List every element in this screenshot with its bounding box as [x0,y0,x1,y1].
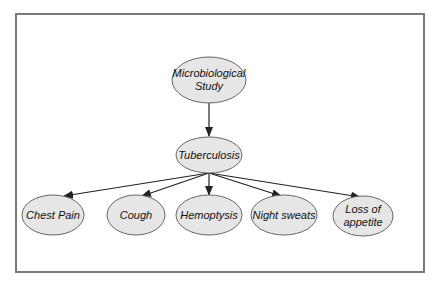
node-label: Cough [120,209,152,221]
node-night-sweats[interactable]: Night sweats [251,195,317,235]
node-chest-pain[interactable]: Chest Pain [22,195,84,235]
node-microbiological-study[interactable]: Microbiological Study [172,57,246,103]
edge-tb-night [209,173,281,196]
node-label: Tuberculosis [178,149,240,161]
edge-tb-cough [142,173,209,196]
node-label: Night sweats [253,209,316,221]
node-label: Chest Pain [26,209,80,221]
node-label-line: appetite [343,216,382,228]
node-label-line: Microbiological [173,67,246,79]
edge-tb-loss [209,173,360,197]
node-label-line: Study [195,80,225,92]
edge-tb-chest [64,173,209,196]
node-tuberculosis[interactable]: Tuberculosis [176,137,242,173]
node-hemoptysis[interactable]: Hemoptysis [176,195,242,235]
node-label-line: Loss of [345,203,381,215]
node-cough[interactable]: Cough [107,195,165,235]
bayesian-network-diagram: Microbiological Study Tuberculosis Chest… [0,0,438,289]
node-loss-of-appetite[interactable]: Loss of appetite [333,196,393,236]
node-label: Hemoptysis [180,209,238,221]
